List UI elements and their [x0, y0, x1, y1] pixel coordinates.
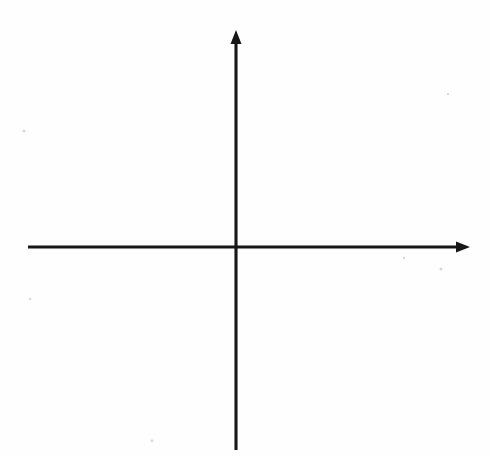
coordinate-plane-figure: [0, 0, 490, 456]
y-axis-arrowhead: [231, 30, 242, 44]
coordinate-plane-svg: [0, 0, 490, 456]
x-axis-arrowhead: [456, 242, 470, 253]
axes-group: [28, 30, 470, 450]
